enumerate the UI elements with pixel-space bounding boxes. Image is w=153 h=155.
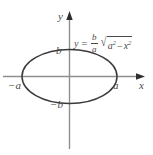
tick-label-a: a [113, 79, 119, 91]
radicand-expression: a2−x2 [107, 36, 133, 51]
tick-label-b: b [56, 44, 62, 56]
y-axis-label: y [58, 10, 63, 22]
x-axis-label: x [139, 79, 144, 91]
tick-label-negative-a: −a [8, 79, 21, 91]
tick-label-negative-b: −b [50, 98, 63, 110]
radicand-operator: − [117, 41, 123, 52]
equation-lhs: y [74, 38, 78, 49]
equation-annotation: y = b a √ a2−x2 [74, 33, 132, 54]
fraction-numerator: b [91, 33, 98, 43]
radical-sign-icon: √ [100, 35, 106, 51]
equation-radical: √ a2−x2 [100, 35, 133, 51]
plot-canvas [0, 0, 153, 155]
equation-fraction: b a [91, 33, 98, 54]
figure-container: the area of the ellipse is ... y x b −b … [0, 0, 153, 155]
radicand-first-exponent: 2 [113, 39, 116, 46]
equation-equals-sign: = [81, 38, 87, 49]
radicand-second-exponent: 2 [128, 39, 131, 46]
y-axis-arrow-icon [66, 11, 72, 20]
fraction-denominator: a [91, 43, 98, 54]
